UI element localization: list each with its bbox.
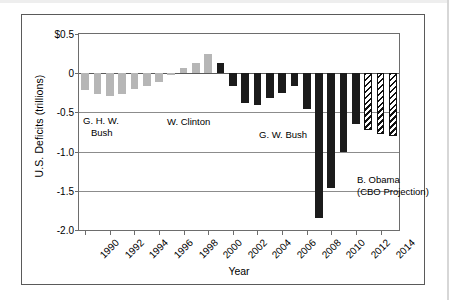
x-tick-label: 1992: [122, 237, 146, 261]
plot-area: $0.50-0.5-1.0-1.5-2.0 199019921994199619…: [78, 33, 400, 231]
bar-2002: [229, 73, 237, 86]
x-tick-label: 2012: [368, 237, 392, 261]
annotation-obama-line1: B. Obama: [357, 174, 429, 186]
x-tick-mark: [159, 230, 160, 235]
x-tick-mark: [208, 230, 209, 235]
y-tick-label: -2.0: [57, 225, 74, 236]
y-tick-mark: [75, 191, 79, 192]
x-tick-label: 2006: [295, 237, 319, 261]
y-tick-label: $0.5: [55, 29, 74, 40]
bar-2015: [389, 73, 397, 136]
x-tick-label: 1990: [98, 237, 122, 261]
chart-figure-frame: U.S. Deficits (trillions) $0.50-0.5-1.0-…: [21, 14, 425, 285]
annotation-obama: B. Obama (CBO Projection): [357, 174, 429, 197]
x-axis-title: Year: [78, 265, 400, 277]
bar-2007: [291, 73, 299, 86]
y-axis-title: U.S. Deficits (trillions): [33, 46, 45, 206]
x-tick-label: 2008: [319, 237, 343, 261]
x-tick-mark: [233, 230, 234, 235]
bar-1991: [94, 73, 102, 94]
gridline--1.0: [79, 152, 399, 153]
bar-1995: [143, 73, 151, 86]
y-tick-label: 0: [68, 68, 74, 79]
bar-1993: [118, 73, 126, 93]
x-tick-label: 2004: [270, 237, 294, 261]
x-tick-mark: [110, 230, 111, 235]
bar-2010: [327, 73, 335, 188]
bar-2005: [266, 73, 274, 98]
bar-2013: [364, 73, 372, 129]
bar-2006: [278, 73, 286, 93]
bar-2012: [352, 73, 360, 124]
bar-2004: [254, 73, 262, 105]
annotation-gw-bush-line1: G. W. Bush: [259, 129, 307, 141]
annotation-clinton: W. Clinton: [167, 116, 210, 128]
annotation-ghw-bush: G. H. W. Bush: [83, 115, 119, 138]
x-tick-mark: [85, 230, 86, 235]
bar-2000: [204, 54, 212, 73]
y-tick-label: -1.5: [57, 185, 74, 196]
x-tick-mark: [282, 230, 283, 235]
bar-1999: [192, 63, 200, 73]
bar-2008: [303, 73, 311, 109]
bar-2011: [340, 73, 348, 151]
x-tick-mark: [257, 230, 258, 235]
bar-1998: [180, 68, 188, 73]
annotation-ghw-bush-line2: Bush: [83, 127, 119, 139]
y-tick-label: -0.5: [57, 107, 74, 118]
bar-2014: [377, 73, 385, 134]
x-tick-mark: [381, 230, 382, 235]
x-tick-mark: [356, 230, 357, 235]
annotation-ghw-bush-line1: G. H. W.: [83, 115, 119, 127]
y-tick-mark: [75, 230, 79, 231]
bar-1996: [155, 73, 163, 82]
x-tick-label: 2010: [344, 237, 368, 261]
annotation-clinton-line1: W. Clinton: [167, 116, 210, 128]
annotation-gw-bush: G. W. Bush: [259, 129, 307, 141]
page-top-band: [0, 0, 449, 3]
bar-2009: [315, 73, 323, 218]
x-tick-label: 2000: [221, 237, 245, 261]
x-tick-label: 1994: [147, 237, 171, 261]
y-tick-label: -1.0: [57, 146, 74, 157]
bar-1994: [131, 73, 139, 89]
gridline-0: [79, 73, 399, 74]
bar-1997: [167, 73, 175, 75]
x-tick-mark: [307, 230, 308, 235]
gridline--0.5: [79, 112, 399, 113]
x-tick-mark: [331, 230, 332, 235]
x-tick-label: 2002: [245, 237, 269, 261]
y-tick-mark: [75, 112, 79, 113]
y-tick-mark: [75, 152, 79, 153]
bar-1990: [81, 73, 89, 90]
x-tick-mark: [134, 230, 135, 235]
bar-1992: [106, 73, 114, 96]
x-tick-mark: [184, 230, 185, 235]
bar-2001: [217, 63, 225, 73]
x-tick-label: 1998: [196, 237, 220, 261]
x-tick-label: 1996: [172, 237, 196, 261]
x-tick-label: 2014: [393, 237, 417, 261]
bar-2003: [241, 73, 249, 103]
y-tick-mark: [75, 34, 79, 35]
annotation-obama-line2: (CBO Projection): [357, 186, 429, 198]
y-tick-mark: [75, 73, 79, 74]
gridline--1.5: [79, 191, 399, 192]
